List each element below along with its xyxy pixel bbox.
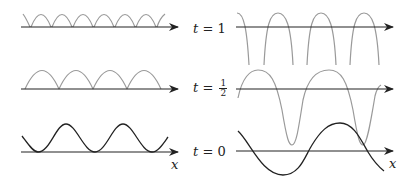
equals-sign: = bbox=[202, 21, 213, 36]
fraction-denominator: 2 bbox=[220, 89, 226, 98]
equals-sign: = bbox=[202, 80, 213, 95]
equals-sign: = bbox=[202, 144, 213, 159]
right-panel-thalf bbox=[236, 70, 393, 145]
axis-label-x-left: x bbox=[171, 157, 178, 172]
time-label-t0: t = 0 bbox=[193, 144, 226, 159]
curve-right-thalf bbox=[238, 70, 381, 145]
left-panel-t0 bbox=[21, 124, 178, 152]
left-panel-thalf bbox=[21, 71, 178, 90]
curve-left-t1 bbox=[23, 14, 165, 27]
time-label-t1: t = 1 bbox=[193, 21, 226, 36]
time-value: 1 bbox=[217, 21, 225, 36]
time-value: 0 bbox=[217, 144, 225, 159]
time-var: t bbox=[193, 80, 198, 95]
curve-right-t1 bbox=[237, 13, 379, 65]
curve-left-thalf bbox=[25, 71, 161, 90]
time-var: t bbox=[193, 21, 198, 36]
right-panel-t1 bbox=[236, 13, 393, 65]
axis-label-x-right: x bbox=[389, 156, 396, 171]
left-panel-t1 bbox=[21, 14, 178, 27]
time-label-thalf: t = 1 2 bbox=[193, 79, 227, 98]
curve-left-t0 bbox=[22, 124, 168, 152]
time-var: t bbox=[193, 144, 198, 159]
curve-right-t0 bbox=[238, 123, 384, 175]
fraction-one-half: 1 2 bbox=[219, 79, 227, 98]
right-panel-t0 bbox=[236, 123, 393, 175]
